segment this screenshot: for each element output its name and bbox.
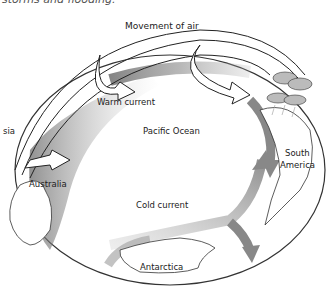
label-warm-current: Warm current	[97, 97, 155, 107]
australia-landmass	[10, 181, 52, 245]
label-south-america-1: South	[285, 148, 310, 158]
label-cold-current: Cold current	[136, 200, 188, 210]
label-pacific-ocean: Pacific Ocean	[143, 126, 200, 136]
label-asia: sia	[3, 126, 15, 136]
label-australia: Australia	[29, 179, 67, 189]
label-movement-of-air: Movement of air	[125, 21, 199, 31]
label-south-america-2: America	[280, 160, 315, 170]
label-antarctica: Antarctica	[140, 262, 183, 272]
pacific-currents-diagram	[0, 0, 329, 289]
